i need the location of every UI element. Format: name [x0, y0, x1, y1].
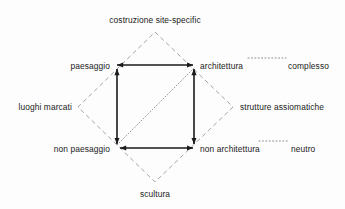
outer-diamond-dashed [78, 32, 233, 182]
corner-label-non-paesaggio: non paesaggio [54, 144, 110, 154]
side-label-complesso: complesso [288, 61, 329, 71]
side-label-neutro: neutro [291, 144, 315, 154]
vertex-label-costruzione-site-specific: costruzione site-specific [109, 15, 200, 25]
corner-label-architettura: architettura [200, 61, 243, 71]
vertex-label-scultura: scultura [140, 189, 170, 199]
dotted-diagonal-line [117, 68, 194, 145]
vertex-label-luoghi-marcati: luoghi marcati [18, 102, 72, 112]
vertex-label-strutture-assiomatiche: strutture assiomatiche [240, 102, 324, 112]
corner-label-paesaggio: paesaggio [70, 61, 110, 71]
corner-label-non-architettura: non architettura [200, 144, 260, 154]
diagram-canvas: costruzione site-specific scultura luogh… [0, 0, 345, 209]
